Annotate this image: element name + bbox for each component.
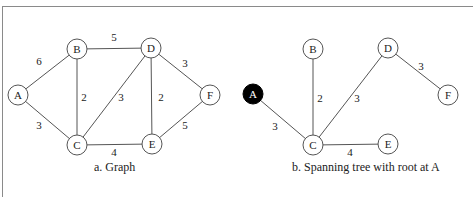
edge-weight-C-D: 3 [354,92,360,104]
edge-weight-A-B: 6 [36,55,42,67]
edge-weight-A-C: 3 [272,120,278,132]
node-B: B [67,39,87,59]
edge-weight-C-E: 4 [347,146,353,158]
edge-weight-C-E: 4 [111,146,117,158]
edge-B-D [77,48,151,49]
caption-spanning-tree: b. Spanning tree with root at A [292,160,440,175]
edge-C-E [313,144,388,145]
edge-weight-C-D: 3 [118,91,124,103]
svg-text:B: B [309,43,316,55]
edge-D-F [151,48,210,95]
svg-text:E: E [385,138,392,150]
node-B: B [303,39,323,59]
svg-text:F: F [445,89,451,101]
node-D: D [378,38,398,58]
edge-weight-B-C: 2 [81,91,87,103]
node-E: E [142,134,162,154]
svg-text:D: D [384,42,392,54]
node-D: D [141,38,161,58]
edge-weight-A-C: 3 [36,119,42,131]
edge-D-E [151,48,152,144]
edge-A-B [18,49,77,95]
svg-text:A: A [14,89,22,101]
edge-weight-B-D: 5 [111,31,117,43]
edge-C-D [313,48,388,145]
node-F: F [438,85,458,105]
caption-graph: a. Graph [94,160,135,175]
edge-C-D [77,48,151,145]
edge-weight-D-F: 3 [418,60,424,72]
edge-C-E [77,144,152,145]
svg-text:C: C [309,139,316,151]
svg-text:A: A [249,88,257,100]
node-A: A [8,85,28,105]
node-C: C [67,135,87,155]
svg-text:F: F [207,89,213,101]
edge-weight-E-F: 5 [182,119,188,131]
edge-A-C [253,94,313,145]
edge-A-C [18,95,77,145]
graph-a: 635232354ABDFCE [8,31,220,158]
svg-text:D: D [147,42,155,54]
node-C: C [303,135,323,155]
edge-weight-D-E: 2 [158,91,164,103]
svg-text:E: E [149,138,156,150]
edge-weight-B-C: 2 [317,92,323,104]
spanning-tree-b: 32334ABDFCE [243,38,458,158]
edge-weight-D-F: 3 [182,57,188,69]
node-F: F [200,85,220,105]
node-E: E [378,134,398,154]
svg-text:B: B [73,43,80,55]
node-A: A [243,84,263,104]
svg-text:C: C [73,139,80,151]
